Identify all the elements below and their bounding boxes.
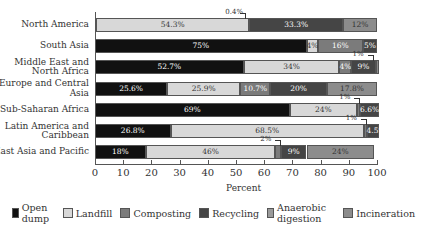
segment-value-label: 12%	[343, 18, 377, 32]
bar-segment	[376, 60, 379, 74]
x-tick	[123, 160, 124, 164]
callout-label: 1%	[353, 50, 364, 58]
x-tick-label: 50	[221, 167, 251, 178]
legend-label: Open dump	[22, 202, 55, 224]
segment-value-label: 25.9%	[167, 82, 240, 96]
segment-value-label: 54.3%	[96, 18, 249, 32]
segment-value-label: 4%	[339, 60, 350, 74]
segment-value-label: 33.3%	[249, 18, 343, 32]
x-tick-label: 70	[277, 167, 307, 178]
category-label: South Asia	[40, 41, 89, 51]
x-tick-label: 90	[334, 167, 364, 178]
segment-value-label: 17.8%	[327, 82, 377, 96]
legend-item: Anaerobic digestion	[267, 202, 335, 224]
callout-leader-line	[240, 13, 246, 19]
x-axis-line	[95, 164, 378, 165]
legend-swatch	[343, 208, 353, 218]
x-tick-label: 0	[80, 167, 110, 178]
segment-value-label: 18%	[95, 145, 146, 159]
callout-label: 2%	[260, 135, 271, 143]
x-axis-label: Percent	[226, 183, 261, 193]
segment-value-label: 34%	[244, 60, 340, 74]
segment-value-label: 25.6%	[95, 82, 167, 96]
legend-item: Landfill	[63, 208, 113, 219]
x-tick-label: 20	[136, 167, 166, 178]
legend-swatch	[120, 208, 130, 218]
bar-row: 69%24%6.6%	[95, 103, 377, 117]
callout-label: 1%	[346, 114, 357, 122]
legend-item: Incineration	[343, 208, 415, 219]
category-label: Europe and CentralAsia	[0, 79, 89, 98]
segment-value-label: 52.7%	[95, 60, 244, 74]
bar-row: 26.8%68.5%4.5%	[95, 124, 377, 138]
x-tick	[264, 160, 265, 164]
x-tick	[321, 160, 322, 164]
legend-swatch	[12, 208, 19, 218]
segment-value-label: 4.5%	[367, 124, 380, 138]
legend-item: Open dump	[12, 202, 55, 224]
segment-value-label: 46%	[146, 145, 276, 159]
x-tick	[236, 160, 237, 164]
x-tick	[292, 160, 293, 164]
category-label: Sub-Saharan Africa	[0, 105, 89, 115]
callout-leader-line	[275, 140, 281, 146]
x-tick-label: 100	[362, 167, 392, 178]
x-tick-label: 80	[306, 167, 336, 178]
segment-value-label: 69%	[95, 103, 290, 117]
category-label: North America	[21, 20, 89, 30]
legend-item: Composting	[120, 208, 191, 219]
callout-label: 1%	[339, 93, 350, 101]
x-tick	[377, 160, 378, 164]
legend-swatch	[267, 208, 274, 218]
callout-leader-line	[368, 55, 374, 61]
x-tick	[95, 160, 96, 164]
segment-value-label: 10.7%	[240, 82, 270, 96]
segment-value-label: 26.8%	[95, 124, 171, 138]
x-tick	[349, 160, 350, 164]
x-tick	[151, 160, 152, 164]
x-tick-label: 30	[165, 167, 195, 178]
legend-label: Anaerobic digestion	[277, 202, 335, 224]
legend-label: Recycling	[212, 208, 259, 219]
legend-label: Landfill	[76, 208, 113, 219]
bar-row: 25.6%25.9%10.7%20%17.8%	[95, 82, 377, 96]
bar-row: 18%46%9%24%	[95, 145, 377, 159]
x-tick	[208, 160, 209, 164]
segment-value-label: 9%	[281, 145, 306, 159]
category-label: Middle East andNorth Africa	[14, 58, 89, 77]
bar-row: 75%4%16%5%	[95, 39, 377, 53]
stacked-bar-chart: North AmericaSouth AsiaMiddle East andNo…	[0, 0, 423, 227]
segment-value-label: 9%	[351, 60, 376, 74]
segment-value-label: 24%	[307, 145, 375, 159]
x-tick-label: 40	[193, 167, 223, 178]
x-tick-label: 60	[249, 167, 279, 178]
segment-value-label: 6.6%	[360, 103, 379, 117]
legend-swatch	[63, 208, 73, 218]
bar-row: 54.3%33.3%12%	[95, 18, 377, 32]
category-label: East Asia and Pacific	[0, 147, 89, 157]
callout-leader-line	[361, 119, 367, 125]
bar-row: 52.7%34%4%9%	[95, 60, 377, 74]
x-tick	[180, 160, 181, 164]
callout-leader-line	[354, 98, 360, 104]
segment-value-label: 75%	[95, 39, 307, 53]
segment-value-label: 5%	[363, 39, 377, 53]
legend: Open dumpLandfillCompostingRecyclingAnae…	[12, 202, 423, 224]
segment-value-label: 20%	[270, 82, 326, 96]
legend-label: Composting	[133, 208, 191, 219]
y-axis-line	[95, 12, 96, 164]
legend-item: Recycling	[199, 208, 259, 219]
legend-swatch	[199, 208, 209, 218]
segment-value-label: 4%	[307, 39, 318, 53]
category-label: Latin America andCaribbean	[5, 122, 89, 141]
legend-label: Incineration	[356, 208, 415, 219]
x-tick-label: 10	[108, 167, 138, 178]
